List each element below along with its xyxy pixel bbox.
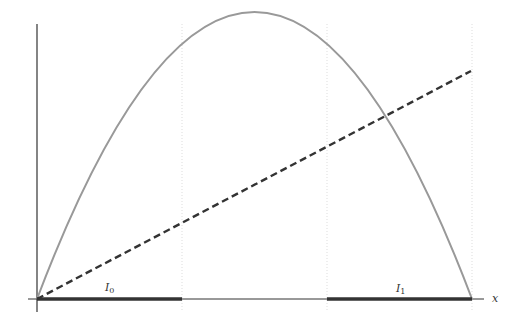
diagram-canvas: [0, 0, 514, 326]
gridlines: [182, 24, 472, 312]
dashed-line: [37, 71, 471, 299]
interval-i1-label: I1: [396, 283, 405, 296]
parabola-curve: [37, 12, 472, 299]
interval-i0-label: I0: [105, 282, 114, 295]
x-axis-label: x: [492, 293, 498, 304]
